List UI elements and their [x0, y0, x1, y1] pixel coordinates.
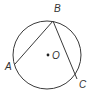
label-b: B — [54, 3, 61, 14]
label-c: C — [79, 79, 87, 90]
label-o: O — [52, 50, 60, 61]
label-a: A — [4, 61, 12, 72]
chord-ab — [15, 21, 53, 64]
center-dot — [47, 54, 50, 57]
circle-diagram: B A C O — [0, 0, 90, 90]
